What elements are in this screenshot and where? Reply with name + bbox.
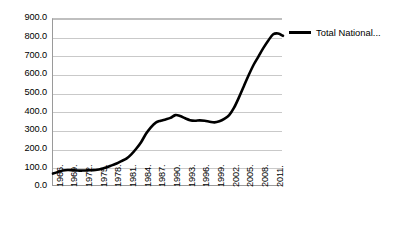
series-total-national <box>53 19 283 187</box>
x-tick-label: 1981. <box>129 165 138 188</box>
x-tick-label: 2005. <box>246 165 255 188</box>
x-tick-label: 1993. <box>188 165 197 188</box>
y-tick-label: 600.0 <box>25 69 48 78</box>
legend-line-swatch <box>289 31 311 34</box>
x-tick-label: 1996. <box>202 165 211 188</box>
legend-item-label: Total National... <box>316 27 381 38</box>
x-tick-label: 1990. <box>173 165 182 188</box>
y-tick-label: 800.0 <box>25 32 48 41</box>
series-line <box>53 33 283 173</box>
x-tick-label: 1987. <box>158 165 167 188</box>
x-tick-label: 2011. <box>276 165 285 187</box>
y-tick-label: 100.0 <box>25 163 48 172</box>
y-tick-label: 900.0 <box>25 13 48 22</box>
x-tick-label: 2002. <box>232 165 241 188</box>
y-axis: 900.0800.0700.0600.0500.0400.0300.0200.0… <box>0 0 50 234</box>
x-tick-label: 1978. <box>114 165 123 188</box>
y-tick-label: 200.0 <box>25 144 48 153</box>
y-tick-label: 500.0 <box>25 88 48 97</box>
plot-area <box>52 18 282 186</box>
x-axis: 1966.1969.1972.1975.1978.1981.1984.1987.… <box>52 187 282 234</box>
chart-legend: Total National... <box>289 27 381 38</box>
x-tick-label: 1999. <box>217 165 226 188</box>
x-tick-label: 1969. <box>70 165 79 188</box>
x-tick-label: 1966. <box>56 165 65 188</box>
x-tick-label: 1972. <box>85 165 94 188</box>
y-tick-label: 300.0 <box>25 125 48 134</box>
x-tick-label: 1984. <box>144 165 153 188</box>
y-tick-label: 700.0 <box>25 51 48 60</box>
x-tick-label: 2008. <box>261 165 270 188</box>
y-tick-label: 0.0 <box>35 181 47 190</box>
x-tick-label: 1975. <box>100 165 109 188</box>
line-chart: 900.0800.0700.0600.0500.0400.0300.0200.0… <box>0 0 398 234</box>
y-tick-label: 400.0 <box>25 107 48 116</box>
